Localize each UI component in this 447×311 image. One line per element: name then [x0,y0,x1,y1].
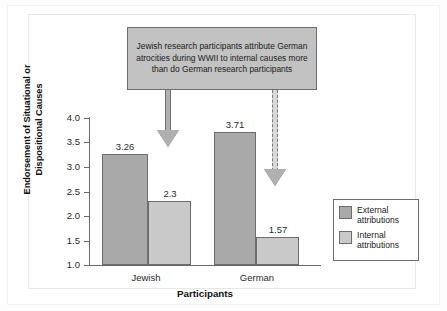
bar-german-external[interactable] [214,132,256,265]
y-tick-2-5 [84,192,90,193]
annotation-callout-box: Jewish research participants attribute G… [127,27,317,90]
y-tick-label-2-5: 2.5 [52,187,80,197]
annotation-callout-text: Jewish research participants attribute G… [135,41,309,75]
y-tick-label-1-0: 1.0 [52,260,80,270]
annotation-arrow-solid-head-icon [157,130,179,147]
legend-label-internal: Internalattributions [357,230,399,251]
annotation-arrow-dashed-shaft [272,90,278,171]
bar-value-german-internal: 1.57 [255,225,301,235]
y-axis-title: Endorsement of Situational or Dispositio… [22,50,45,210]
legend-label-external: Externalattributions [357,205,399,226]
legend-swatch-external [339,206,352,219]
legend-item-external[interactable]: Externalattributions [339,205,414,226]
y-tick-3-0 [84,167,90,168]
y-tick-labels: 4.0 3.5 3.0 2.5 2.0 1.5 1.0 [50,0,80,311]
annotation-arrow-dashed-head-icon [264,169,286,186]
bar-jewish-external[interactable] [102,154,148,265]
y-tick-3-5 [84,142,90,143]
y-tick-1-5 [84,241,90,242]
y-tick-4-0 [84,118,90,119]
figure-container: Endorsement of Situational or Dispositio… [0,0,447,311]
legend-item-internal[interactable]: Internalattributions [339,230,414,251]
y-tick-label-2-0: 2.0 [52,211,80,221]
x-category-label-jewish: Jewish [101,272,191,283]
bar-jewish-internal[interactable] [148,201,191,265]
bar-value-german-external: 3.71 [212,120,258,130]
annotation-arrow-solid-shaft [165,90,171,132]
x-axis-title: Participants [89,288,321,299]
y-tick-label-3-5: 3.5 [52,137,80,147]
y-axis-title-text: Endorsement of Situational or Dispositio… [22,65,44,195]
y-tick-label-3-0: 3.0 [52,162,80,172]
bar-value-jewish-external: 3.26 [102,142,148,152]
y-tick-label-1-5: 1.5 [52,236,80,246]
y-tick-2-0 [84,216,90,217]
bar-german-internal[interactable] [256,237,299,265]
y-tick-label-4-0: 4.0 [52,113,80,123]
bar-value-jewish-internal: 2.3 [147,189,193,199]
x-category-label-german: German [212,272,302,283]
legend: Externalattributions Internalattribution… [333,199,419,261]
x-axis-line [89,265,321,266]
legend-swatch-internal [339,231,352,244]
y-tick-1-0 [84,265,90,266]
